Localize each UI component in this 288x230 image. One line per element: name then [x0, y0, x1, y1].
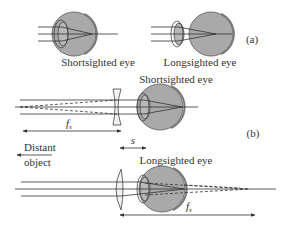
spacing-label: s	[131, 134, 135, 146]
b-longsighted-focal-label: fs	[186, 200, 192, 214]
b-shortsighted-label: Shortsighted eye	[139, 73, 213, 85]
eye-correction-diagram: Shortsighted eye Longsighted eye (a) Sho…	[0, 0, 288, 230]
distant-object-line1: Distant	[24, 141, 56, 153]
a-longsighted-eye	[151, 12, 234, 56]
part-a-tag: (a)	[246, 33, 259, 46]
a-shortsighted-eye	[38, 12, 118, 56]
distant-object-line2: object	[24, 156, 51, 168]
part-b-tag: (b)	[247, 127, 260, 140]
a-longsighted-label: Longsighted eye	[163, 56, 236, 68]
b-longsighted-label: Longsighted eye	[139, 154, 212, 166]
a-shortsighted-label: Shortsighted eye	[61, 56, 135, 68]
b-shortsighted-focal-label: fs	[66, 117, 72, 131]
convex-lens	[116, 169, 123, 210]
